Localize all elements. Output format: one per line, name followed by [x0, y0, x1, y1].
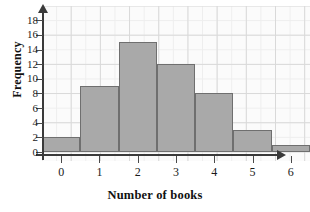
- x-axis-tick-label: 5: [243, 166, 263, 178]
- histogram-bar: [233, 130, 271, 152]
- histogram-bar: [42, 137, 80, 152]
- x-axis-tick: [253, 156, 254, 163]
- y-axis-tick-label: 0: [16, 147, 38, 158]
- x-axis-tick: [138, 156, 139, 163]
- x-axis-tick: [176, 156, 177, 163]
- histogram-chart: 024681012141618 0123456 Number of books …: [0, 0, 310, 212]
- x-axis-tick-label: 4: [204, 166, 224, 178]
- histogram-bar: [195, 93, 233, 152]
- histogram-bar: [157, 64, 195, 152]
- y-axis-title: Frequency: [10, 15, 25, 125]
- x-axis-title: Number of books: [0, 188, 310, 203]
- x-axis-tick-label: 0: [51, 166, 71, 178]
- x-axis-tick-label: 1: [89, 166, 109, 178]
- x-axis-tick: [291, 156, 292, 163]
- x-axis-tick: [99, 156, 100, 163]
- y-axis-tick-label: 2: [16, 132, 38, 143]
- x-axis-tick-label: 2: [128, 166, 148, 178]
- x-axis-arrow-icon: [277, 150, 286, 160]
- x-axis-line: [36, 154, 279, 156]
- x-axis-tick-label: 6: [281, 166, 301, 178]
- x-axis-tick: [61, 156, 62, 163]
- x-axis-tick-label: 3: [166, 166, 186, 178]
- x-axis-tick: [214, 156, 215, 163]
- plot-area: [42, 6, 310, 161]
- histogram-bar: [80, 86, 118, 152]
- histogram-bar: [119, 42, 157, 152]
- y-axis-arrow-icon: [38, 4, 48, 13]
